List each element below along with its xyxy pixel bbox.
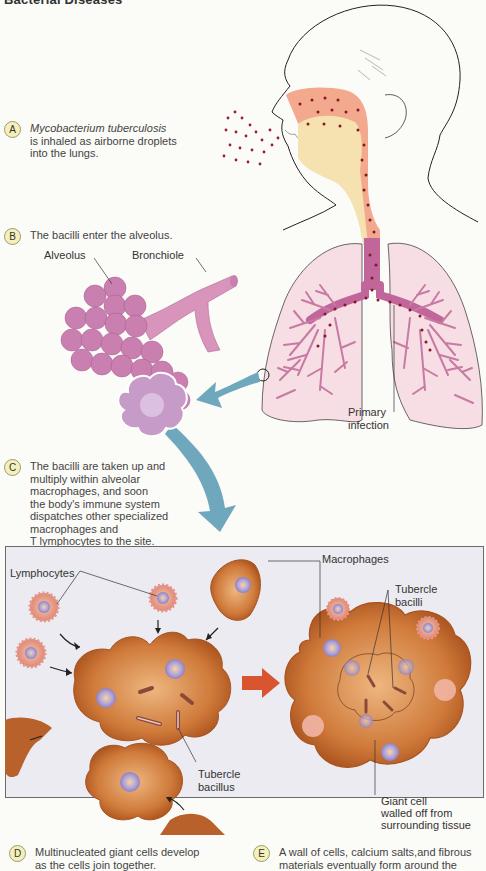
blue-arrow-to-alveolus: [196, 372, 260, 408]
step-a-badge: A: [4, 121, 21, 138]
step-c: C The bacilli are taken up and multiply …: [4, 460, 168, 548]
right-lung: [262, 244, 362, 422]
step-d: D Multinucleated giant cells develop as …: [9, 846, 200, 871]
alveolus-cluster: [61, 258, 238, 436]
step-b-badge: B: [4, 228, 21, 245]
step-e: E A wall of cells, calcium salts,and fib…: [253, 846, 472, 871]
oral-cavity: [298, 116, 368, 245]
label-tubercle-bacillus: Tubercle bacillus: [198, 768, 240, 793]
step-a-text: Mycobacterium tuberculosis is inhaled as…: [30, 122, 177, 160]
bronchiole: [140, 276, 236, 352]
label-lymphocytes: Lymphocytes: [10, 567, 74, 580]
label-primary-infection: Primary infection: [348, 406, 389, 431]
step-a: A Mycobacterium tuberculosis is inhaled …: [4, 122, 177, 160]
airborne-droplets: [223, 111, 280, 166]
step-b: B The bacilli enter the alveolus.: [4, 229, 172, 245]
step-d-text: Multinucleated giant cells develop as th…: [35, 846, 200, 871]
label-tubercle-bacilli: Tubercle bacilli: [395, 583, 437, 608]
step-e-text: A wall of cells, calcium salts,and fibro…: [279, 846, 472, 871]
step-e-badge: E: [253, 845, 270, 862]
label-alveolus: Alveolus: [44, 249, 86, 262]
blue-arrow-down: [165, 424, 236, 532]
step-d-badge: D: [9, 845, 26, 862]
label-giant-cell: Giant cell walled off from surrounding t…: [381, 795, 471, 831]
label-macrophages: Macrophages: [322, 553, 389, 566]
step-c-badge: C: [4, 459, 21, 476]
step-b-text: The bacilli enter the alveolus.: [30, 229, 172, 242]
step-c-text: The bacilli are taken up and multiply wi…: [30, 460, 168, 548]
label-bronchiole: Bronchiole: [132, 249, 184, 262]
